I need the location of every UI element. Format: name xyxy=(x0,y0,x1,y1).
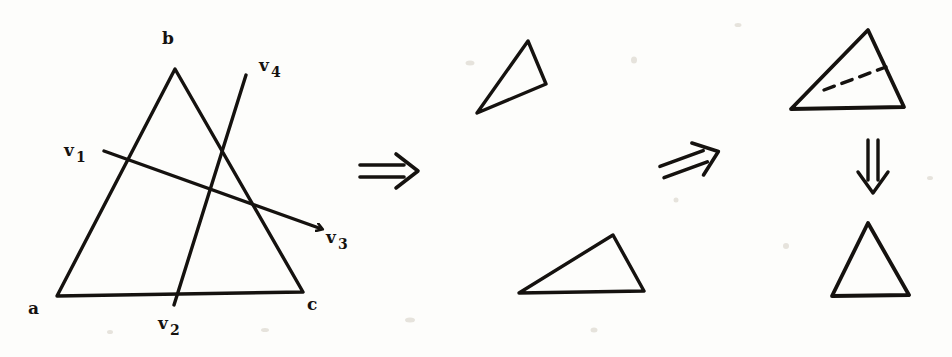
point-label-v1-base: v xyxy=(64,140,74,160)
seam-dashed-line xyxy=(824,67,886,90)
implies-arrow-1 xyxy=(360,154,418,188)
vertex-label-c: c xyxy=(307,296,317,313)
merged-triangle xyxy=(791,30,904,109)
paper-speckle xyxy=(674,198,679,203)
paper-speckle xyxy=(631,57,637,64)
paper-speckle xyxy=(735,23,742,27)
paper-speckle xyxy=(261,328,269,332)
panel-original-triangle xyxy=(57,69,319,305)
paper-speckle xyxy=(927,176,933,180)
implies-arrow-2 xyxy=(656,136,724,188)
point-label-v4-base: v xyxy=(259,55,269,75)
piece-triangle-lower xyxy=(519,235,644,293)
paper-speckles xyxy=(107,23,933,334)
panel-separated-pieces xyxy=(477,41,644,293)
point-label-v4-subscript: 4 xyxy=(271,64,281,80)
vertex-label-a-text: a xyxy=(28,298,39,318)
point-label-v1: v1 xyxy=(64,142,84,159)
result-triangle xyxy=(832,223,909,296)
paper-speckle xyxy=(405,318,415,323)
point-label-v2-base: v xyxy=(158,313,168,333)
panel-result-triangle xyxy=(832,223,909,296)
vertex-label-b-text: b xyxy=(162,28,174,48)
triangle-abc xyxy=(57,69,303,296)
paper-speckle xyxy=(783,243,789,249)
vertex-label-c-text: c xyxy=(307,294,317,314)
point-label-v2: v2 xyxy=(158,315,178,332)
point-label-v3-base: v xyxy=(326,227,336,247)
panel-merged-triangle xyxy=(791,30,904,109)
paper-speckle xyxy=(466,61,475,66)
implies-arrow-3 xyxy=(858,140,888,193)
point-label-v3-subscript: 3 xyxy=(338,236,348,252)
paper-speckle xyxy=(107,330,113,334)
point-label-v1-subscript: 1 xyxy=(76,149,86,165)
vertex-label-a: a xyxy=(28,300,39,317)
vertex-label-b: b xyxy=(162,30,174,47)
paper-speckle xyxy=(591,328,598,333)
point-label-v4: v4 xyxy=(259,57,279,74)
figure-canvas-root: a b c v1 v2 v3 v4 xyxy=(0,0,952,357)
piece-triangle-upper xyxy=(477,41,546,113)
cut-line-v2-v4 xyxy=(174,75,246,305)
point-label-v2-subscript: 2 xyxy=(170,322,180,338)
point-label-v3: v3 xyxy=(326,229,346,246)
triangle-decomposition-diagram xyxy=(0,0,952,357)
